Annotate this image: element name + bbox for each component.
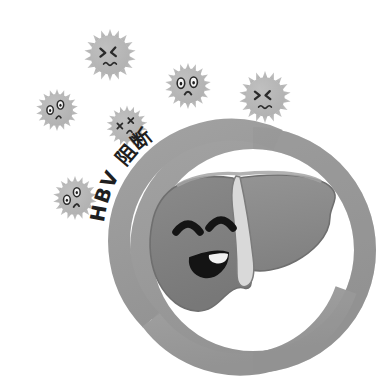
virus-pupil-left <box>66 199 68 202</box>
virus-pupil-left <box>180 82 183 86</box>
hbv-blocking-illustration: HBV 阻断 <box>0 0 386 380</box>
virus-pupil-left <box>49 109 51 112</box>
virus-pupil-right <box>59 104 61 107</box>
virus-pupil-right <box>192 81 195 85</box>
virus-pupil-right <box>76 191 78 194</box>
